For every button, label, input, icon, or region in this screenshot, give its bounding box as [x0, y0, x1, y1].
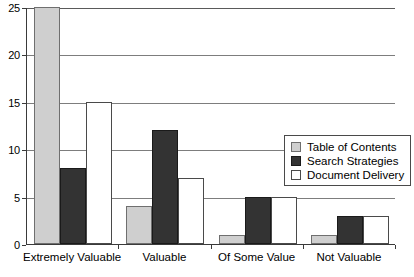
legend-item: Table of Contents — [291, 140, 405, 153]
y-tick-label: 0 — [0, 240, 20, 251]
bar — [152, 130, 178, 244]
x-tick-label: Extremely Valuable — [23, 251, 121, 264]
x-tick-mark — [118, 245, 119, 249]
bar — [126, 206, 152, 244]
x-tick-mark — [211, 245, 212, 249]
bar — [245, 197, 271, 244]
x-tick-mark — [303, 245, 304, 249]
legend-label: Document Delivery — [307, 169, 404, 181]
x-tick-label: Of Some Value — [218, 251, 295, 264]
bar-chart: 0510152025 Extremely ValuableValuableOf … — [0, 0, 414, 277]
bar — [34, 7, 60, 244]
x-tick-label: Valuable — [142, 251, 186, 264]
bar — [363, 216, 389, 244]
y-tick-label: 10 — [0, 145, 20, 156]
y-tick-label: 20 — [0, 50, 20, 61]
bar — [86, 102, 112, 244]
y-tick-label: 25 — [0, 3, 20, 14]
gridline — [27, 55, 395, 56]
x-tick-mark — [395, 245, 396, 249]
legend-label: Table of Contents — [307, 141, 397, 153]
gridline — [27, 103, 395, 104]
legend-item: Document Delivery — [291, 168, 405, 181]
legend-item: Search Strategies — [291, 154, 405, 167]
bar — [60, 168, 86, 244]
legend: Table of Contents Search Strategies Docu… — [284, 135, 411, 186]
legend-swatch-search-strategies — [291, 156, 301, 166]
legend-swatch-document-delivery — [291, 170, 301, 180]
y-tick-label: 5 — [0, 192, 20, 203]
bar — [178, 178, 204, 244]
legend-swatch-table-of-contents — [291, 142, 301, 152]
y-tick-mark — [22, 245, 26, 246]
x-tick-label: Not Valuable — [316, 251, 381, 264]
legend-label: Search Strategies — [307, 155, 398, 167]
y-tick-label: 15 — [0, 97, 20, 108]
bar — [271, 197, 297, 244]
bar — [311, 235, 337, 244]
plot-area — [26, 8, 395, 245]
bar — [337, 216, 363, 244]
bar — [219, 235, 245, 244]
gridline — [27, 8, 395, 9]
